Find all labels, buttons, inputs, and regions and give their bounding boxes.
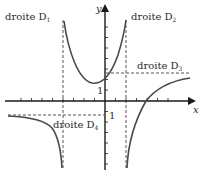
label-d1: droite D1 [5, 11, 50, 23]
x-axis-label: x [193, 104, 199, 115]
label-d4: droite D4 [53, 119, 99, 131]
y-unit-label: 1 [97, 85, 103, 96]
x-unit-label: 1 [109, 110, 115, 121]
label-d2: droite D2 [131, 11, 177, 23]
function-graph: y x 1 1 droite D1 droite D2 droite D3 dr… [0, 0, 201, 173]
y-axis-label: y [95, 3, 102, 14]
curve-middle-branch [64, 20, 126, 83]
curve-right-branch [127, 78, 190, 168]
label-d3: droite D3 [137, 60, 183, 72]
